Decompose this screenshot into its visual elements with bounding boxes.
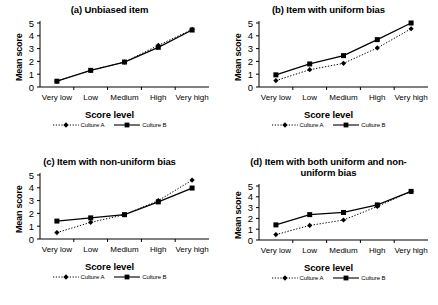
x-tick-label: Low <box>302 93 317 102</box>
marker-square <box>88 68 93 73</box>
x-tick-label: Medium <box>110 245 139 254</box>
marker-diamond <box>307 223 312 228</box>
x-tick-label: Very high <box>175 93 208 102</box>
legend-item-culture-a: Culture A <box>53 273 105 281</box>
y-tick-label: 5 <box>248 18 253 29</box>
marker-diamond <box>273 232 278 237</box>
panel-c-plot: Mean score 012345Very lowLowMediumHighVe… <box>0 167 219 261</box>
x-tick-label: High <box>369 246 385 255</box>
y-tick-label: 2 <box>29 56 34 67</box>
series-line-culture-b <box>276 23 411 75</box>
marker-diamond <box>375 45 380 50</box>
marker-square <box>156 199 161 204</box>
panel-c-title: (c) Item with non-uniform bias <box>0 152 219 167</box>
marker-square <box>54 219 59 224</box>
marker-square <box>375 202 380 207</box>
marker-square <box>409 21 414 26</box>
panel-d-x-axis-label: Score level <box>219 262 438 273</box>
marker-square <box>156 45 161 50</box>
y-tick-label: 5 <box>248 181 253 192</box>
panel-a-title-line: (a) Unbiased item <box>6 4 213 15</box>
panel-a-plot: Mean score 012345Very lowLowMediumHighVe… <box>0 15 219 109</box>
x-tick-label: Medium <box>329 246 358 255</box>
legend-item-culture-b: Culture B <box>114 273 166 281</box>
y-tick-label: 0 <box>29 82 34 93</box>
y-tick-label: 1 <box>29 69 34 80</box>
x-tick-label: Low <box>302 246 317 255</box>
y-tick-label: 1 <box>29 221 34 232</box>
y-tick-label: 2 <box>248 213 253 224</box>
panel-d-title-line-1: (d) Item with both uniform and non- <box>225 156 432 167</box>
panel-c-svg: 012345Very lowLowMediumHighVery high <box>0 167 219 261</box>
y-tick-label: 1 <box>248 69 253 80</box>
y-tick-label: 1 <box>248 224 253 235</box>
panel-b-y-axis-label: Mean score <box>233 33 243 81</box>
panel-d-title: (d) Item with both uniform and non- unif… <box>219 152 438 178</box>
marker-square <box>307 61 312 66</box>
panel-b-svg: 012345Very lowLowMediumHighVery high <box>219 15 438 109</box>
legend-label-culture-a: Culture A <box>300 121 324 129</box>
x-tick-label: High <box>150 245 166 254</box>
x-tick-label: Medium <box>329 93 358 102</box>
marker-square <box>190 28 195 33</box>
y-tick-label: 3 <box>248 202 253 213</box>
panel-d: (d) Item with both uniform and non- unif… <box>219 152 438 305</box>
panel-c: (c) Item with non-uniform bias Mean scor… <box>0 152 219 305</box>
x-tick-label: Very low <box>261 93 291 102</box>
legend-label-culture-a: Culture A <box>300 274 324 282</box>
legend-solid-square-icon <box>333 121 359 129</box>
legend-dotted-diamond-icon <box>53 121 79 129</box>
legend-label-culture-b: Culture B <box>361 121 385 129</box>
marker-square <box>375 37 380 42</box>
legend-item-culture-a: Culture A <box>272 121 324 129</box>
figure-panel-grid: (a) Unbiased item Mean score 012345Very … <box>0 0 438 305</box>
legend-label-culture-b: Culture B <box>142 273 166 281</box>
x-tick-label: Very low <box>42 93 72 102</box>
y-tick-label: 4 <box>29 30 34 41</box>
y-tick-label: 4 <box>248 30 253 41</box>
marker-square <box>341 53 346 58</box>
marker-diamond <box>88 220 93 225</box>
marker-square <box>341 210 346 215</box>
panel-a-title: (a) Unbiased item <box>0 0 219 15</box>
legend-item-culture-b: Culture B <box>114 121 166 129</box>
panel-a: (a) Unbiased item Mean score 012345Very … <box>0 0 219 152</box>
panel-c-title-line: (c) Item with non-uniform bias <box>6 156 213 167</box>
panel-b-x-axis-label: Score level <box>219 109 438 120</box>
panel-b-legend: Culture A Culture B <box>219 121 438 129</box>
panel-b-plot: Mean score 012345Very lowLowMediumHighVe… <box>219 15 438 109</box>
marker-diamond <box>190 178 195 183</box>
marker-diamond <box>341 61 346 66</box>
marker-diamond <box>54 230 59 235</box>
series-line-culture-a <box>57 29 192 81</box>
marker-square <box>88 215 93 220</box>
x-tick-label: High <box>369 93 385 102</box>
series-line-culture-b <box>57 30 192 81</box>
panel-d-plot: Mean score 012345Very lowLowMediumHighVe… <box>219 178 438 262</box>
x-tick-label: High <box>150 93 166 102</box>
y-tick-label: 0 <box>248 235 253 246</box>
panel-c-y-axis-label: Mean score <box>14 185 24 233</box>
panel-a-svg: 012345Very lowLowMediumHighVery high <box>0 15 219 109</box>
legend-item-culture-b: Culture B <box>333 274 385 282</box>
panel-a-x-axis-label: Score level <box>0 109 219 120</box>
y-tick-label: 5 <box>29 170 34 181</box>
marker-diamond <box>307 67 312 72</box>
marker-square <box>122 212 127 217</box>
y-tick-label: 3 <box>248 43 253 54</box>
marker-square <box>54 79 59 84</box>
legend-item-culture-b: Culture B <box>333 121 385 129</box>
y-tick-label: 3 <box>29 43 34 54</box>
panel-b-title: (b) Item with uniform bias <box>219 0 438 15</box>
legend-item-culture-a: Culture A <box>53 121 105 129</box>
legend-label-culture-b: Culture B <box>361 274 385 282</box>
marker-square <box>190 186 195 191</box>
legend-label-culture-b: Culture B <box>142 121 166 129</box>
x-tick-label: Very high <box>394 246 427 255</box>
marker-square <box>307 212 312 217</box>
panel-d-y-axis-label: Mean score <box>233 191 243 239</box>
x-tick-label: Medium <box>110 93 139 102</box>
panel-c-x-axis-label: Score level <box>0 261 219 272</box>
legend-label-culture-a: Culture A <box>81 121 105 129</box>
marker-square <box>273 72 278 77</box>
